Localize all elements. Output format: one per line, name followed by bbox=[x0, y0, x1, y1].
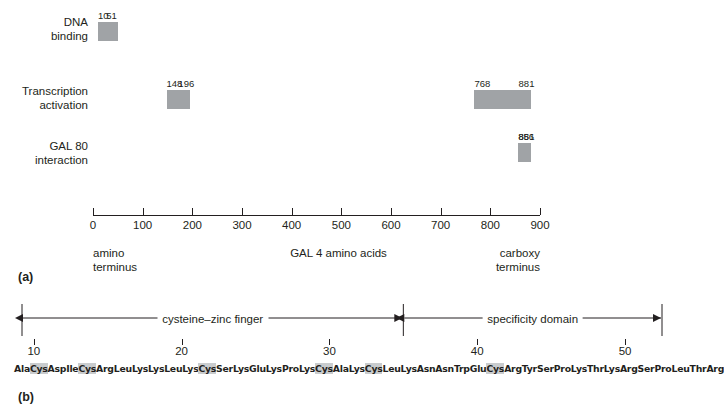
axis-tick-label-400: 400 bbox=[282, 219, 301, 231]
sequence-tick-label-50: 50 bbox=[619, 345, 632, 357]
axis-tick-label-0: 0 bbox=[90, 219, 96, 231]
residue-25-lys: Lys bbox=[266, 363, 282, 374]
residue-31-cys: Cys bbox=[365, 363, 383, 374]
segment-end-gal80-interaction: 881 bbox=[519, 131, 535, 142]
axis-tick-label-900: 900 bbox=[530, 219, 549, 231]
residue-21-cys: Cys bbox=[198, 363, 216, 374]
axis-tick-label-200: 200 bbox=[183, 219, 202, 231]
residue-50-thr: Thr bbox=[690, 363, 707, 374]
axis-title: GAL 4 amino acids bbox=[0, 247, 677, 261]
residue-13-ile: Ile bbox=[66, 363, 78, 374]
residue-28-cys: Cys bbox=[315, 363, 333, 374]
axis-tick-label-300: 300 bbox=[232, 219, 251, 231]
residue-20-lys: Lys bbox=[182, 363, 198, 374]
axis-tick-600 bbox=[391, 208, 392, 215]
residue-14-cys: Cys bbox=[78, 363, 96, 374]
residue-40-tyr: Tyr bbox=[522, 363, 537, 374]
sequence-tick-label-30: 30 bbox=[323, 345, 336, 357]
segment-end-transcription-activation-n: 196 bbox=[178, 78, 194, 89]
residue-27-lys: Lys bbox=[299, 363, 315, 374]
residue-19-leu: Leu bbox=[164, 363, 182, 374]
segment-transcription-activation-c bbox=[474, 90, 530, 109]
axis-tick-label-500: 500 bbox=[332, 219, 351, 231]
axis-tick-500 bbox=[341, 208, 342, 215]
residue-17-lys: Lys bbox=[132, 363, 148, 374]
residue-30-lys: Lys bbox=[349, 363, 365, 374]
residue-16-leu: Leu bbox=[114, 363, 132, 374]
residue-47-ser: Ser bbox=[638, 363, 655, 374]
residue-43-lys: Lys bbox=[571, 363, 587, 374]
residue-36-trp: Trp bbox=[454, 363, 470, 374]
axis-tick-300 bbox=[242, 208, 243, 215]
residue-46-arg: Arg bbox=[620, 363, 638, 374]
residue-32-leu: Leu bbox=[382, 363, 400, 374]
axis-tick-label-600: 600 bbox=[381, 219, 400, 231]
axis-tick-400 bbox=[292, 208, 293, 215]
residue-42-pro: Pro bbox=[554, 363, 571, 374]
residue-26-pro: Pro bbox=[282, 363, 299, 374]
panel-b-label: (b) bbox=[18, 390, 34, 404]
residue-45-lys: Lys bbox=[604, 363, 620, 374]
residue-38-cys: Cys bbox=[486, 363, 504, 374]
residue-39-arg: Arg bbox=[504, 363, 522, 374]
axis-tick-label-100: 100 bbox=[133, 219, 152, 231]
domain-label-specificity-domain: specificity domain bbox=[482, 313, 583, 325]
carboxy-terminus-caption: carboxy terminus bbox=[440, 247, 540, 274]
domain-label-cysteine-zinc-finger: cysteine–zinc finger bbox=[157, 313, 268, 325]
residue-33-lys: Lys bbox=[401, 363, 417, 374]
row-label-gal80-interaction: GAL 80 interaction bbox=[0, 140, 88, 167]
segment-dna-binding bbox=[98, 22, 118, 41]
panel-a-label: (a) bbox=[18, 270, 33, 284]
residue-44-thr: Thr bbox=[587, 363, 604, 374]
sequence-tick-label-40: 40 bbox=[471, 345, 484, 357]
residue-18-lys: Lys bbox=[148, 363, 164, 374]
residue-34-asn: Asn bbox=[417, 363, 436, 374]
axis-tick-0 bbox=[93, 208, 94, 215]
segment-start-transcription-activation-c: 768 bbox=[474, 78, 490, 89]
residue-41-ser: Ser bbox=[537, 363, 554, 374]
residue-15-arg: Arg bbox=[96, 363, 114, 374]
amino-acid-axis-line bbox=[93, 215, 540, 216]
axis-tick-800 bbox=[490, 208, 491, 215]
axis-tick-100 bbox=[143, 208, 144, 215]
residue-37-glu: Glu bbox=[470, 363, 487, 374]
residue-35-asn: Asn bbox=[435, 363, 454, 374]
row-label-transcription-activation: Transcription activation bbox=[0, 85, 88, 112]
residue-24-glu: Glu bbox=[249, 363, 266, 374]
residue-12-asp: Asp bbox=[48, 363, 67, 374]
axis-tick-700 bbox=[441, 208, 442, 215]
axis-tick-label-800: 800 bbox=[481, 219, 500, 231]
residue-11-cys: Cys bbox=[30, 363, 48, 374]
residue-10-ala: Ala bbox=[14, 363, 30, 374]
sequence-tick-label-10: 10 bbox=[27, 345, 40, 357]
residue-51-arg: Arg bbox=[706, 363, 724, 374]
segment-end-dna-binding: 51 bbox=[106, 10, 117, 21]
row-label-dna-binding: DNA binding bbox=[0, 16, 88, 43]
axis-tick-label-700: 700 bbox=[431, 219, 450, 231]
segment-transcription-activation-n bbox=[167, 90, 191, 109]
segment-end-transcription-activation-c: 881 bbox=[519, 78, 535, 89]
residue-29-ala: Ala bbox=[333, 363, 349, 374]
sequence-tick-label-20: 20 bbox=[175, 345, 188, 357]
axis-tick-200 bbox=[192, 208, 193, 215]
residue-49-leu: Leu bbox=[672, 363, 690, 374]
residue-22-ser: Ser bbox=[216, 363, 233, 374]
residue-23-lys: Lys bbox=[233, 363, 249, 374]
residue-48-pro: Pro bbox=[654, 363, 671, 374]
axis-tick-900 bbox=[540, 208, 541, 215]
segment-gal80-interaction bbox=[518, 143, 530, 162]
amino-acid-sequence: AlaCysAspIleCysArgLeuLysLysLeuLysCysSerL… bbox=[14, 361, 664, 376]
